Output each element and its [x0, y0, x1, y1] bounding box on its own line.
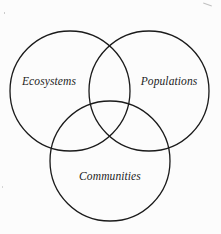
circle-communities: [50, 101, 170, 221]
scan-artifact: [4, 12, 5, 14]
label-ecosystems: Ecosystems: [22, 75, 76, 87]
venn-circles: [0, 0, 221, 234]
label-populations: Populations: [141, 75, 198, 87]
venn-diagram: Ecosystems Populations Communities: [0, 0, 221, 234]
circle-populations: [89, 31, 209, 151]
label-communities: Communities: [79, 170, 141, 182]
circle-ecosystems: [10, 31, 130, 151]
scan-artifact: [2, 186, 3, 188]
